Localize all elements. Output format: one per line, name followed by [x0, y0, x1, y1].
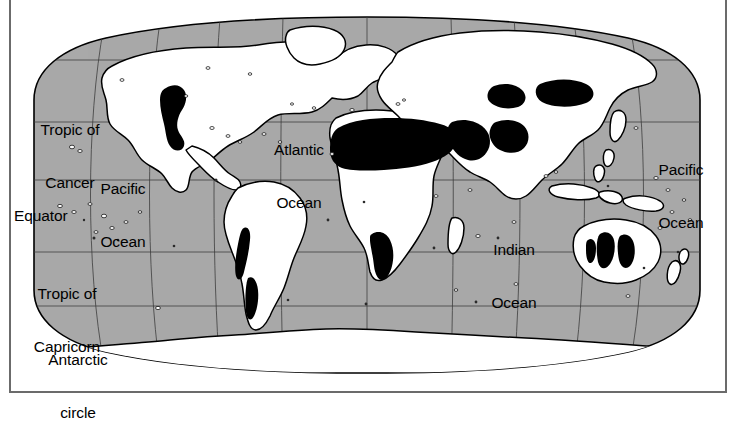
label-tropic-of-capricorn-line1: Tropic of — [14, 285, 120, 303]
label-atlantic-ocean-line2: Ocean — [262, 194, 336, 212]
east-asia-island-2 — [603, 149, 614, 166]
label-pacific-ocean-east: Pacific Ocean — [648, 126, 714, 266]
label-tropic-of-cancer-line1: Tropic of — [20, 121, 120, 139]
label-pacific-ocean-east-line2: Ocean — [648, 214, 714, 232]
label-indian-ocean-line1: Indian — [480, 241, 548, 259]
label-indian-ocean: Indian Ocean — [480, 206, 548, 346]
label-pacific-ocean-west: Pacific Ocean — [90, 145, 156, 285]
label-antarctic-circle-line1: Antarctic — [26, 351, 130, 369]
label-atlantic-ocean: Atlantic Ocean — [262, 106, 336, 246]
label-pacific-ocean-west-line1: Pacific — [90, 180, 156, 198]
label-antarctic-circle: Antarctic circle — [26, 316, 130, 422]
label-pacific-ocean-west-line2: Ocean — [90, 233, 156, 251]
label-antarctic-circle-line2: circle — [26, 404, 130, 422]
desert-gobi — [536, 80, 594, 107]
label-indian-ocean-line2: Ocean — [480, 294, 548, 312]
philippines — [594, 165, 605, 182]
label-pacific-ocean-east-line1: Pacific — [648, 161, 714, 179]
label-atlantic-ocean-line1: Atlantic — [262, 141, 336, 159]
